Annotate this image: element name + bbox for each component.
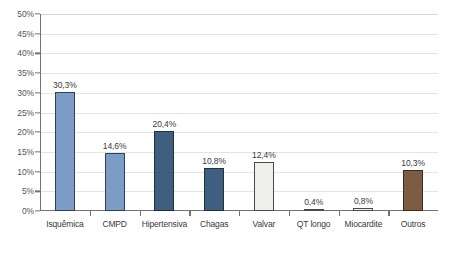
bar-value-label: 14,6% (103, 141, 127, 151)
y-tick-label: 15% (17, 147, 34, 157)
x-tick-mark (388, 211, 389, 216)
x-tick-label: Isquêmica (46, 219, 83, 229)
bars-layer: 30,3%14,6%20,4%10,8%12,4%0,4%0,8%10,3% (40, 14, 438, 211)
bar-value-label: 20,4% (153, 119, 177, 129)
bar-value-label: 12,4% (252, 150, 276, 160)
x-tick-label: Chagas (200, 219, 228, 229)
bar-slot: 14,6% (90, 14, 140, 211)
bar-qt-longo[interactable] (304, 209, 324, 212)
y-tick-label: 20% (17, 127, 34, 137)
x-tick-label: Hipertensiva (142, 219, 187, 229)
x-axis: IsquêmicaCMPDHipertensivaChagasValvarQT … (40, 213, 438, 235)
bar-value-label: 10,8% (202, 156, 226, 166)
x-tick-label: CMPD (102, 219, 126, 229)
x-tick-mark (339, 211, 340, 216)
y-tick-label: 40% (17, 48, 34, 58)
y-tick-label: 45% (17, 29, 34, 39)
bar-value-label: 30,3% (53, 80, 77, 90)
x-tick-mark (239, 211, 240, 216)
y-tick-label: 50% (17, 9, 34, 19)
x-tick-mark (140, 211, 141, 216)
bar-slot: 10,3% (388, 14, 438, 211)
x-tick-mark (90, 211, 91, 216)
bar-hipertensiva[interactable] (154, 131, 174, 211)
bar-slot: 0,8% (339, 14, 389, 211)
bar-slot: 10,8% (189, 14, 239, 211)
bar-slot: 20,4% (140, 14, 190, 211)
x-tick-label: Valvar (253, 219, 276, 229)
bar-isquêmica[interactable] (55, 92, 75, 211)
bar-valvar[interactable] (254, 162, 274, 211)
y-axis: 0%5%10%15%20%25%30%35%40%45%50% (0, 14, 34, 211)
bar-cmpd[interactable] (105, 153, 125, 211)
bar-chagas[interactable] (204, 168, 224, 211)
y-tick-label: 25% (17, 108, 34, 118)
bar-value-label: 0,8% (354, 196, 373, 206)
x-tick-mark (289, 211, 290, 216)
bar-slot: 12,4% (239, 14, 289, 211)
x-tick-label: QT longo (297, 219, 331, 229)
bar-outros[interactable] (403, 170, 423, 211)
y-tick-label: 10% (17, 167, 34, 177)
bar-slot: 30,3% (40, 14, 90, 211)
y-tick-label: 35% (17, 68, 34, 78)
y-tick-label: 30% (17, 88, 34, 98)
y-tick-label: 5% (22, 186, 34, 196)
x-tick-label: Miocardite (345, 219, 383, 229)
bar-miocardite[interactable] (353, 208, 373, 211)
bar-value-label: 0,4% (304, 197, 323, 207)
bar-chart: 0%5%10%15%20%25%30%35%40%45%50% 30,3%14,… (0, 0, 449, 253)
bar-value-label: 10,3% (401, 158, 425, 168)
x-tick-mark (189, 211, 190, 216)
x-tick-label: Outros (401, 219, 426, 229)
bar-slot: 0,4% (289, 14, 339, 211)
y-tick-label: 0% (22, 206, 34, 216)
